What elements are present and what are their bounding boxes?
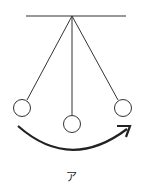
pendulum-diagram (0, 0, 143, 188)
bob-right (115, 100, 132, 117)
caption-label: ア (0, 168, 143, 184)
bob-center (64, 116, 81, 133)
string-left (27, 16, 72, 100)
bob-left (14, 100, 31, 117)
string-right (72, 16, 118, 100)
